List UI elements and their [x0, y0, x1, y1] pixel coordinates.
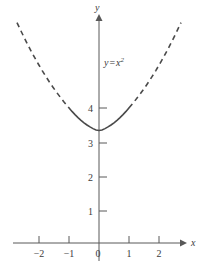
parabola-figure: −2 −1 0 1 2 1 2 3 4 x y y=x2 — [0, 0, 206, 265]
x-tick-label-neg2: −2 — [31, 249, 47, 259]
x-tick-label-origin: 0 — [90, 249, 106, 259]
parabola-dashed-right — [129, 23, 181, 108]
x-tick-label-neg1: −1 — [61, 249, 77, 259]
equation-exponent: 2 — [121, 56, 125, 64]
parabola-dashed-left — [17, 23, 69, 108]
curve-equation-label: y=x2 — [104, 58, 124, 68]
y-axis-label: y — [95, 3, 99, 13]
y-tick-label-2: 2 — [79, 173, 93, 183]
x-tick-label-1: 1 — [121, 249, 137, 259]
y-tick-label-4: 4 — [79, 104, 93, 114]
plot-canvas — [0, 0, 206, 265]
y-axis-arrowhead — [96, 14, 103, 21]
equation-operator: = — [108, 57, 116, 68]
x-axis-label: x — [191, 238, 195, 248]
y-tick-label-3: 3 — [79, 139, 93, 149]
x-axis-arrowhead — [180, 240, 187, 247]
y-tick-label-1: 1 — [79, 207, 93, 217]
y-tick-marks — [99, 108, 107, 211]
x-tick-label-2: 2 — [151, 249, 167, 259]
